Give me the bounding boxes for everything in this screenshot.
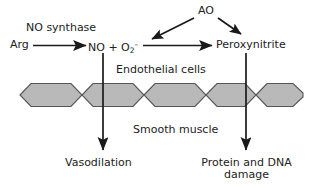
endothelial-cell	[20, 84, 82, 107]
endothelial-cell	[256, 84, 303, 107]
diagram-canvas: NO synthase Arg NO + O2– AO Peroxynitrit…	[0, 0, 319, 188]
endothelial-cell	[206, 84, 256, 107]
label-arg: Arg	[10, 39, 29, 51]
endothelial-cell	[144, 84, 206, 107]
label-no-superoxide: NO + O2–	[88, 39, 138, 57]
arrow-ao-to-no	[152, 18, 194, 39]
label-smooth-muscle: Smooth muscle	[133, 124, 218, 136]
endothelial-cell-band	[20, 84, 303, 107]
label-protein-dna-damage: Protein and DNA damage	[193, 157, 300, 181]
label-peroxynitrite: Peroxynitrite	[216, 39, 286, 51]
label-endothelial-cells: Endothelial cells	[116, 64, 206, 76]
label-no-superoxide-charge: –	[135, 40, 139, 49]
label-no-synthase: NO synthase	[26, 22, 96, 34]
arrow-ao-to-peroxynitrite	[218, 18, 241, 34]
label-ao: AO	[198, 5, 214, 17]
endothelial-cell	[82, 84, 144, 107]
label-no-superoxide-main: NO + O	[88, 41, 130, 54]
label-vasodilation: Vasodilation	[65, 157, 132, 169]
